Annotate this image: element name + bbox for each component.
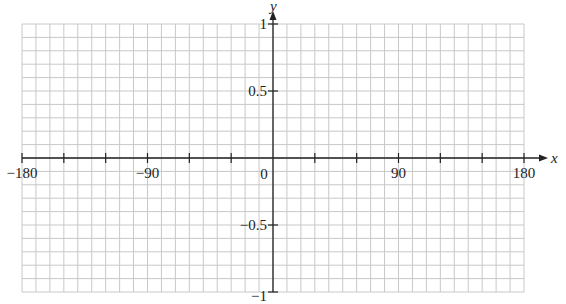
- y-tick-label: −1: [251, 288, 267, 304]
- x-axis-tick-labels: −180−90090180: [7, 165, 536, 182]
- y-axis-label: y: [268, 0, 277, 14]
- x-tick-label: −180: [7, 165, 38, 181]
- y-tick-label: 0.5: [248, 83, 267, 99]
- y-tick-label: −0.5: [240, 217, 267, 233]
- y-axis-tick-labels: 10.5−0.5−1: [240, 16, 267, 304]
- x-tick-label: −90: [136, 165, 159, 181]
- x-axis-label: x: [550, 150, 558, 166]
- y-tick-label: 1: [260, 16, 268, 32]
- blank-graph-grid: −180−90090180 10.5−0.5−1 x y: [0, 0, 566, 304]
- x-tick-label: 90: [391, 165, 406, 181]
- axes: [22, 11, 548, 292]
- x-tick-label: 180: [513, 165, 536, 181]
- x-tick-label: 0: [260, 166, 268, 182]
